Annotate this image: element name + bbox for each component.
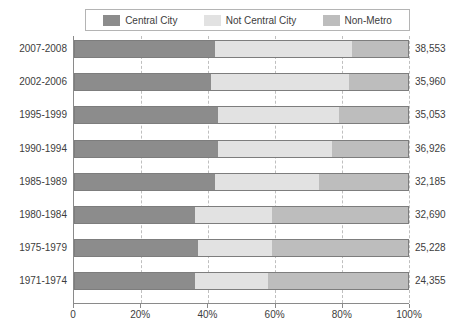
bar-segment[interactable] (198, 239, 272, 257)
bar-row[interactable] (74, 40, 409, 58)
x-tick-mark (342, 304, 343, 308)
category-label: 1971-1974 (0, 275, 67, 287)
stacked-bar-chart: Central City Not Central City Non-Metro … (0, 0, 463, 330)
row-total-label: 36,926 (415, 143, 463, 155)
bar-row[interactable] (74, 206, 409, 224)
x-tick-mark (140, 304, 141, 308)
bar-segment[interactable] (74, 239, 198, 257)
x-tick-label: 80% (332, 309, 352, 321)
bar-row[interactable] (74, 140, 409, 158)
legend-item-not-central-city[interactable]: Not Central City (204, 15, 297, 26)
bar-segment[interactable] (195, 206, 272, 224)
bar-segment[interactable] (74, 173, 215, 191)
legend-swatch-not-central-city (204, 15, 221, 26)
bar-segment[interactable] (272, 206, 409, 224)
x-tick-mark (275, 304, 276, 308)
bar-rows (74, 36, 409, 303)
category-label: 1980-1984 (0, 209, 67, 221)
bar-segment[interactable] (268, 272, 409, 290)
bar-segment[interactable] (74, 272, 195, 290)
category-label: 1990-1994 (0, 143, 67, 155)
category-label: 2007-2008 (0, 43, 67, 55)
row-total-label: 32,185 (415, 176, 463, 188)
x-tick-mark (73, 304, 74, 308)
bar-row[interactable] (74, 239, 409, 257)
x-tick-label: 60% (265, 309, 285, 321)
x-tick-label: 100% (396, 309, 422, 321)
bar-segment[interactable] (74, 140, 218, 158)
category-label: 1975-1979 (0, 242, 67, 254)
chart-legend: Central City Not Central City Non-Metro (85, 9, 410, 31)
legend-label-non-metro: Non-Metro (345, 15, 392, 26)
row-total-label: 32,690 (415, 209, 463, 221)
x-tick-mark (409, 304, 410, 308)
legend-label-central-city: Central City (125, 15, 177, 26)
legend-item-central-city[interactable]: Central City (103, 15, 177, 26)
bar-segment[interactable] (195, 272, 269, 290)
legend-item-non-metro[interactable]: Non-Metro (323, 15, 392, 26)
bar-segment[interactable] (332, 140, 409, 158)
bar-segment[interactable] (215, 173, 319, 191)
row-total-label: 35,960 (415, 76, 463, 88)
category-label: 1995-1999 (0, 109, 67, 121)
category-label: 2002-2006 (0, 76, 67, 88)
row-total-label: 35,053 (415, 109, 463, 121)
plot-area (73, 36, 409, 304)
row-total-label: 38,553 (415, 43, 463, 55)
bar-segment[interactable] (74, 206, 195, 224)
bar-segment[interactable] (218, 140, 332, 158)
x-tick-label: 20% (130, 309, 150, 321)
x-tick-mark (207, 304, 208, 308)
bar-segment[interactable] (74, 40, 215, 58)
bar-row[interactable] (74, 73, 409, 91)
legend-swatch-non-metro (323, 15, 340, 26)
bar-row[interactable] (74, 173, 409, 191)
gridline-100 (409, 36, 410, 303)
x-axis: 020%40%60%80%100% (73, 304, 409, 328)
x-tick-label: 40% (197, 309, 217, 321)
bar-row[interactable] (74, 106, 409, 124)
legend-label-not-central-city: Not Central City (226, 15, 297, 26)
bar-segment[interactable] (211, 73, 348, 91)
bar-segment[interactable] (319, 173, 409, 191)
legend-swatch-central-city (103, 15, 120, 26)
row-total-label: 24,355 (415, 275, 463, 287)
x-tick-label: 0 (70, 309, 76, 321)
bar-segment[interactable] (352, 40, 409, 58)
bar-segment[interactable] (339, 106, 409, 124)
category-label: 1985-1989 (0, 176, 67, 188)
bar-segment[interactable] (349, 73, 409, 91)
bar-segment[interactable] (74, 73, 211, 91)
bar-segment[interactable] (272, 239, 409, 257)
bar-row[interactable] (74, 272, 409, 290)
bar-segment[interactable] (74, 106, 218, 124)
bar-segment[interactable] (218, 106, 339, 124)
row-total-label: 25,228 (415, 242, 463, 254)
bar-segment[interactable] (215, 40, 352, 58)
